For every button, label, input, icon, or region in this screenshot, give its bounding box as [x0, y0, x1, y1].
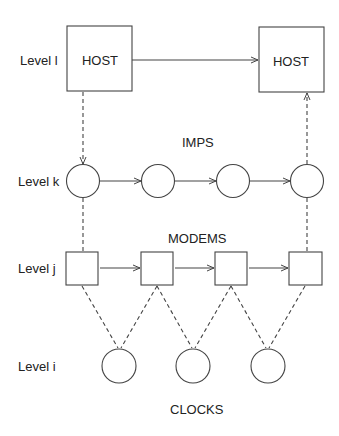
- clocks-label: CLOCKS: [170, 403, 223, 416]
- clock-node-3: [251, 349, 285, 383]
- level-i-label: Level i: [18, 360, 56, 373]
- level-j-label: Level j: [18, 262, 56, 275]
- modem-node-2: [141, 252, 173, 285]
- modems-label: MODEMS: [168, 232, 227, 245]
- clock-node-1: [102, 349, 136, 383]
- imp-node-1: [67, 165, 100, 198]
- imp-node-2: [142, 165, 175, 198]
- imps-label: IMPS: [182, 136, 214, 149]
- modem-node-1: [66, 252, 98, 285]
- modem-node-3: [215, 252, 247, 285]
- host-left-label: HOST: [82, 54, 118, 67]
- imp-node-3: [217, 165, 250, 198]
- clock-node-2: [176, 349, 210, 383]
- modem-clock-links: [82, 286, 305, 348]
- imp-node-4: [291, 165, 324, 198]
- level-k-label: Level k: [18, 175, 59, 188]
- host-right-label: HOST: [273, 55, 309, 68]
- modem-node-4: [289, 252, 322, 285]
- level-l-label: Level l: [20, 54, 58, 67]
